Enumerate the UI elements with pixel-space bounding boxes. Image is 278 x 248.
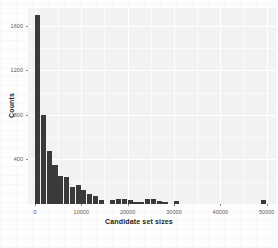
gridline-minor-vertical: [58, 8, 59, 204]
x-axis-tick-mark: [81, 204, 82, 206]
histogram-bar: [99, 200, 104, 204]
y-axis-tick-label: 1600: [2, 23, 23, 29]
histogram-bar: [145, 199, 150, 204]
y-axis-tick-mark: [26, 26, 28, 27]
plot-panel: [28, 8, 276, 204]
y-axis-tick-mark: [26, 115, 28, 116]
x-axis-tick-label: 50000: [251, 209, 278, 215]
gridline-minor-vertical: [151, 8, 152, 204]
y-axis-tick-mark: [26, 70, 28, 71]
gridline-minor-vertical: [244, 8, 245, 204]
histogram-bar: [93, 196, 98, 204]
gridline-major-horizontal: [28, 115, 276, 116]
histogram-bar: [139, 202, 144, 204]
chart-figure: Counts Candidate set sizes 4008001200160…: [0, 0, 278, 248]
histogram-bar: [122, 199, 127, 204]
histogram-bar: [58, 176, 63, 204]
gridline-major-vertical: [81, 8, 82, 204]
histogram-bar: [261, 200, 266, 204]
gridline-major-vertical: [128, 8, 129, 204]
histogram-bar: [116, 199, 121, 204]
gridline-major-horizontal: [28, 159, 276, 160]
histogram-bar: [110, 200, 115, 204]
histogram-bar: [35, 15, 40, 204]
histogram-bar: [47, 151, 52, 204]
x-axis-tick-mark: [35, 204, 36, 206]
gridline-minor-horizontal: [28, 137, 276, 138]
x-axis-title: Candidate set sizes: [0, 218, 278, 225]
x-axis-tick-mark: [267, 204, 268, 206]
gridline-major-vertical: [220, 8, 221, 204]
gridline-major-horizontal: [28, 70, 276, 71]
y-axis-tick-label: 1200: [2, 67, 23, 73]
histogram-bar: [64, 177, 69, 204]
gridline-minor-vertical: [104, 8, 105, 204]
histogram-bar: [41, 115, 46, 204]
gridline-major-vertical: [174, 8, 175, 204]
x-axis-tick-label: 40000: [204, 209, 236, 215]
histogram-bar: [157, 201, 162, 204]
x-axis-tick-mark: [174, 204, 175, 206]
histogram-bar: [87, 194, 92, 204]
histogram-bar: [81, 190, 86, 204]
histogram-bar: [70, 187, 75, 204]
x-axis-tick-label: 0: [19, 209, 51, 215]
gridline-major-horizontal: [28, 26, 276, 27]
histogram-bar: [52, 165, 57, 204]
x-axis-tick-mark: [128, 204, 129, 206]
histogram-bar: [151, 199, 156, 204]
y-axis-tick-label: 400: [2, 156, 23, 162]
histogram-bar: [133, 202, 138, 204]
gridline-minor-vertical: [197, 8, 198, 204]
histogram-bar: [162, 202, 167, 204]
x-axis-tick-label: 30000: [158, 209, 190, 215]
x-axis-tick-label: 10000: [65, 209, 97, 215]
y-axis-tick-mark: [26, 159, 28, 160]
gridline-major-vertical: [267, 8, 268, 204]
gridline-minor-horizontal: [28, 48, 276, 49]
x-axis-tick-label: 20000: [112, 209, 144, 215]
y-axis-tick-label: 800: [2, 112, 23, 118]
histogram-bar: [76, 185, 81, 204]
gridline-minor-horizontal: [28, 93, 276, 94]
x-axis-tick-mark: [220, 204, 221, 206]
